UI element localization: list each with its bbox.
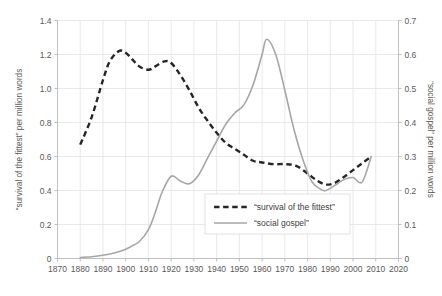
x-tick-label: 1900 — [116, 264, 135, 274]
x-tick-label: 1960 — [253, 264, 272, 274]
x-tick-label: 1990 — [321, 264, 340, 274]
y-left-tick-label: 1.4 — [40, 16, 52, 26]
legend-label: “social gospel” — [254, 218, 309, 228]
y-right-tick-label: 0.6 — [405, 50, 417, 60]
x-tick-label: 1890 — [94, 264, 113, 274]
y-right-tick-label: 0.2 — [405, 186, 417, 196]
x-tick-label: 1950 — [230, 264, 249, 274]
x-tick-label: 2000 — [344, 264, 363, 274]
y-left-tick-label: 0.6 — [40, 152, 52, 162]
y-left-tick-label: 0.4 — [40, 186, 52, 196]
x-tick-label: 2020 — [389, 264, 408, 274]
legend-label: “survival of the fittest” — [254, 202, 335, 212]
chart-legend: “survival of the fittest”“social gospel” — [205, 194, 350, 234]
y-left-tick-label: 1.2 — [40, 50, 52, 60]
y-axis-right-title: “social gospel” per million words — [426, 81, 435, 198]
y-right-tick-label: 0.4 — [405, 118, 417, 128]
x-tick-label: 2010 — [366, 264, 385, 274]
y-left-tick-label: 1.0 — [40, 84, 52, 94]
x-tick-label: 1920 — [162, 264, 181, 274]
chart-container: 1870188018901900191019201930194019501960… — [0, 0, 442, 296]
x-tick-label: 1880 — [71, 264, 90, 274]
line-chart: 1870188018901900191019201930194019501960… — [0, 0, 442, 296]
x-tick-label: 1870 — [48, 264, 67, 274]
y-right-tick-label: 0.7 — [405, 16, 417, 26]
y-axis-left-title: “survival of the fittest” per million wo… — [15, 69, 24, 211]
y-left-tick-label: 0.8 — [40, 118, 52, 128]
y-right-tick-label: 0.1 — [405, 220, 417, 230]
x-tick-label: 1980 — [298, 264, 317, 274]
y-left-tick-label: 0 — [47, 254, 52, 264]
y-left-tick-label: 0.2 — [40, 220, 52, 230]
x-tick-label: 1970 — [275, 264, 294, 274]
y-right-tick-label: 0.3 — [405, 152, 417, 162]
y-right-tick-label: 0.5 — [405, 84, 417, 94]
x-tick-label: 1940 — [207, 264, 226, 274]
y-right-tick-label: 0 — [405, 254, 410, 264]
x-tick-label: 1930 — [184, 264, 203, 274]
x-tick-label: 1910 — [139, 264, 158, 274]
